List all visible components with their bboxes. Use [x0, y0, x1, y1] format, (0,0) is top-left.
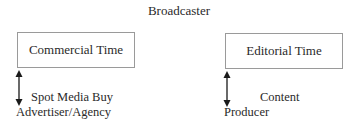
double-arrow-icon	[223, 71, 231, 107]
diagram-title: Broadcaster	[0, 3, 358, 19]
spot-media-buy-label: Spot Media Buy	[31, 90, 113, 105]
commercial-time-box: Commercial Time	[17, 32, 135, 68]
producer-label: Producer	[224, 105, 269, 120]
double-arrow-icon	[15, 70, 23, 106]
editorial-time-box: Editorial Time	[225, 33, 343, 69]
content-label: Content	[260, 90, 300, 105]
advertiser-agency-label: Advertiser/Agency	[16, 105, 111, 120]
commercial-time-label: Commercial Time	[29, 42, 123, 58]
editorial-time-label: Editorial Time	[246, 43, 321, 59]
